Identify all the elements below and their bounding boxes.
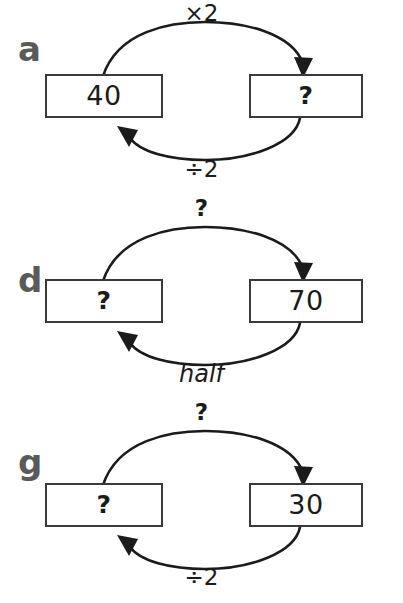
bottom-arrow-curve-d	[130, 323, 300, 365]
bottom-arrow-curve-g	[130, 527, 300, 569]
bottom-arrow-curve-a	[130, 118, 300, 160]
bottom-arrow-head-a	[117, 126, 138, 147]
top-arrow-label-g: ?	[0, 401, 403, 424]
section-letter-g: g	[18, 445, 42, 479]
right-value-box-d[interactable]: 70	[249, 279, 363, 323]
section-letter-a: a	[18, 32, 41, 66]
top-arrow-curve-g	[103, 431, 303, 485]
right-value-text-g: 30	[288, 491, 323, 518]
worksheet-page: a ×2 40 ? ÷2 d ?	[0, 0, 403, 603]
left-value-box-d[interactable]: ?	[45, 279, 163, 323]
right-value-text-a: ?	[298, 83, 313, 108]
left-value-text-a: 40	[86, 82, 121, 109]
top-arrow-curve-a	[103, 22, 303, 76]
left-value-box-a[interactable]: 40	[45, 74, 163, 118]
right-value-text-d: 70	[288, 287, 323, 314]
top-arrow-label-a: ×2	[0, 2, 403, 25]
bottom-arrow-label-d: half	[0, 362, 403, 386]
exercise-section-g: g ? ? 30 ÷2	[0, 390, 403, 603]
left-value-text-d: ?	[96, 288, 111, 313]
bottom-arrow-head-d	[117, 331, 138, 352]
section-letter-d: d	[18, 263, 42, 297]
right-value-box-a[interactable]: ?	[249, 74, 363, 118]
left-value-box-g[interactable]: ?	[45, 483, 163, 527]
exercise-section-a: a ×2 40 ? ÷2	[0, 0, 403, 185]
exercise-section-d: d ? ? 70 half	[0, 185, 403, 390]
bottom-arrow-label-a: ÷2	[0, 158, 403, 181]
right-value-box-g[interactable]: 30	[249, 483, 363, 527]
bottom-arrow-head-g	[117, 535, 138, 556]
bottom-arrow-label-g: ÷2	[0, 566, 403, 589]
top-arrow-label-d: ?	[0, 197, 403, 220]
left-value-text-g: ?	[96, 492, 111, 517]
top-arrow-curve-d	[103, 227, 303, 281]
